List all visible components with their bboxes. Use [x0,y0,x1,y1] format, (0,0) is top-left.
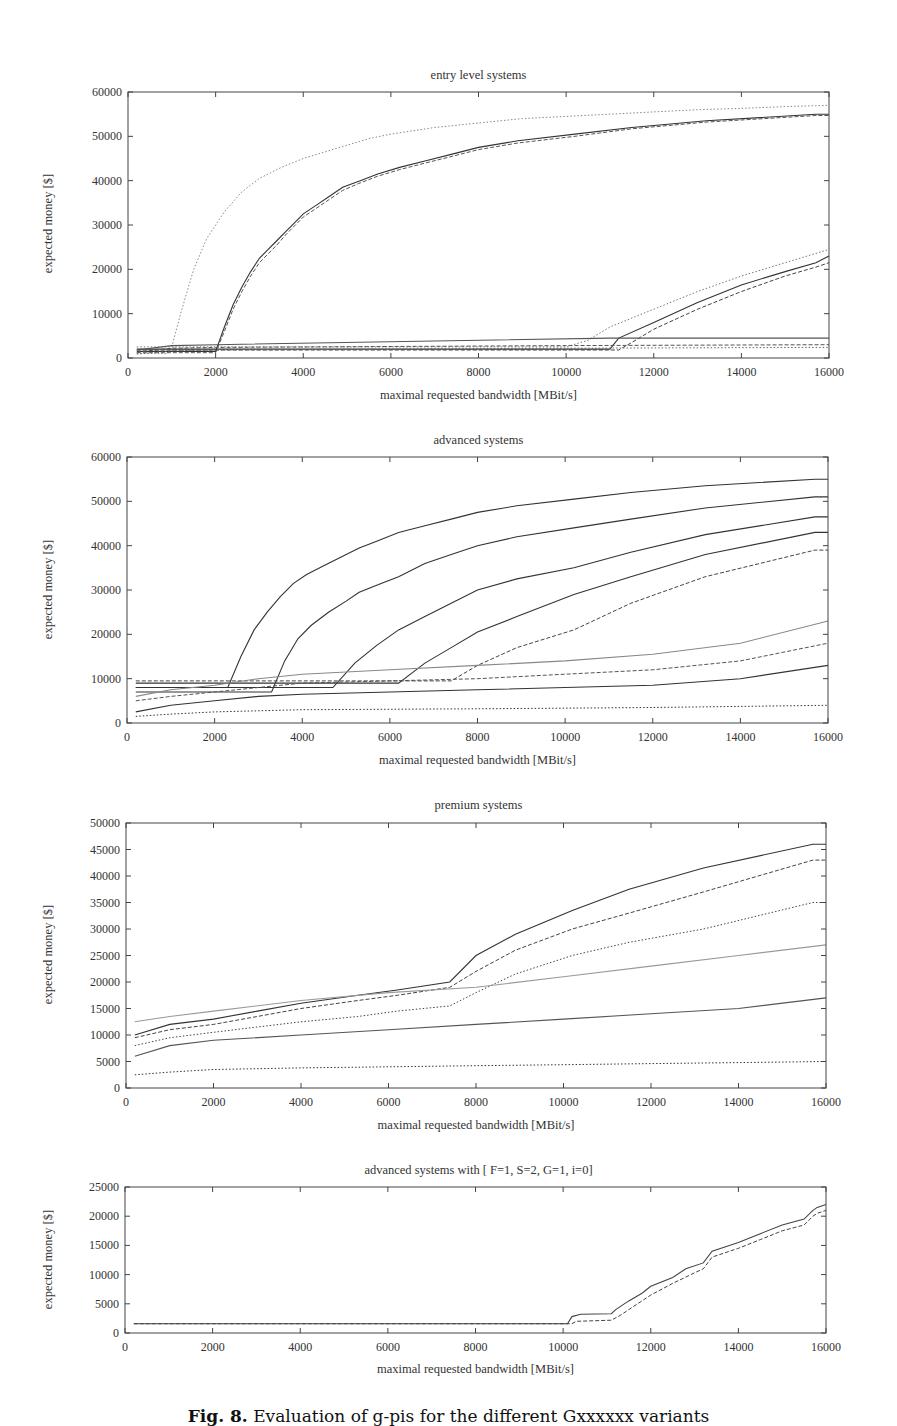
x-tick-label: 0 [122,1340,128,1354]
y-tick-label: 15000 [89,1238,119,1252]
x-tick-label: 12000 [636,1340,666,1354]
y-tick-label: 5000 [95,1297,119,1311]
chart-svg: 0200040006000800010000120001400016000050… [0,0,897,1400]
chart-panel-advanced-config: advanced systems with [ F=1, S=2, G=1, i… [0,0,897,1400]
x-tick-label: 16000 [811,1340,841,1354]
figure-label: Fig. 8. [188,1406,248,1426]
figure-caption-text: Evaluation of g-pis for the different Gx… [253,1406,709,1426]
y-tick-label: 0 [113,1326,119,1340]
x-tick-label: 8000 [464,1340,488,1354]
x-tick-label: 4000 [288,1340,312,1354]
x-tick-label: 10000 [548,1340,578,1354]
x-tick-label: 6000 [376,1340,400,1354]
y-tick-label: 10000 [89,1268,119,1282]
x-tick-label: 14000 [723,1340,753,1354]
plot-frame [125,1187,826,1333]
figure-caption: Fig. 8. Evaluation of g-pis for the diff… [0,1406,897,1426]
series-line [134,1205,826,1324]
y-tick-label: 20000 [89,1209,119,1223]
series-line [134,1210,826,1323]
series-group [134,1205,826,1324]
y-tick-label: 25000 [89,1180,119,1194]
x-axis-label: maximal requested bandwidth [MBit/s] [125,1362,826,1377]
x-tick-label: 2000 [201,1340,225,1354]
